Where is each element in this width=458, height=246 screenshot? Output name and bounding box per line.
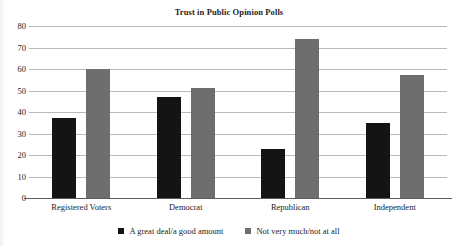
- chart-title: Trust in Public Opinion Polls: [0, 7, 458, 17]
- y-axis-tick-label: 40: [2, 107, 26, 117]
- bar: [400, 75, 424, 198]
- x-axis-category-label: Registered Voters: [29, 202, 134, 212]
- x-axis-category-label: Independent: [343, 202, 448, 212]
- y-axis-tick-label: 20: [2, 150, 26, 160]
- x-axis-category-label: Republican: [238, 202, 343, 212]
- bar: [52, 118, 76, 198]
- bar: [86, 69, 110, 198]
- bar: [366, 123, 390, 198]
- y-axis-tick-label: 70: [2, 43, 26, 53]
- y-axis-tick-labels: 01020304050607080: [0, 0, 26, 246]
- bar-chart: Trust in Public Opinion Polls 0102030405…: [0, 0, 458, 246]
- y-axis-tick-label: 10: [2, 172, 26, 182]
- bar: [261, 149, 285, 198]
- legend-item: A great deal/a good amount: [118, 226, 223, 236]
- bar-group: [52, 26, 110, 198]
- chart-legend: A great deal/a good amountNot very much/…: [0, 226, 458, 236]
- y-axis-tick-label: 60: [2, 64, 26, 74]
- y-axis-tick-label: 80: [2, 21, 26, 31]
- bar: [295, 39, 319, 198]
- x-axis-category-label: Democrat: [134, 202, 239, 212]
- legend-label: Not very much/not at all: [256, 226, 339, 236]
- legend-swatch-icon: [245, 228, 251, 234]
- bar-group: [366, 26, 424, 198]
- legend-label: A great deal/a good amount: [129, 226, 223, 236]
- plot-area: [29, 26, 447, 198]
- bar: [157, 97, 181, 198]
- bar-group: [261, 26, 319, 198]
- bar: [191, 88, 215, 198]
- x-axis-line: [24, 198, 452, 199]
- legend-swatch-icon: [118, 228, 124, 234]
- legend-item: Not very much/not at all: [245, 226, 339, 236]
- y-axis-tick-label: 0: [2, 193, 26, 203]
- y-axis-tick-label: 50: [2, 86, 26, 96]
- bar-group: [157, 26, 215, 198]
- y-axis-tick-label: 30: [2, 129, 26, 139]
